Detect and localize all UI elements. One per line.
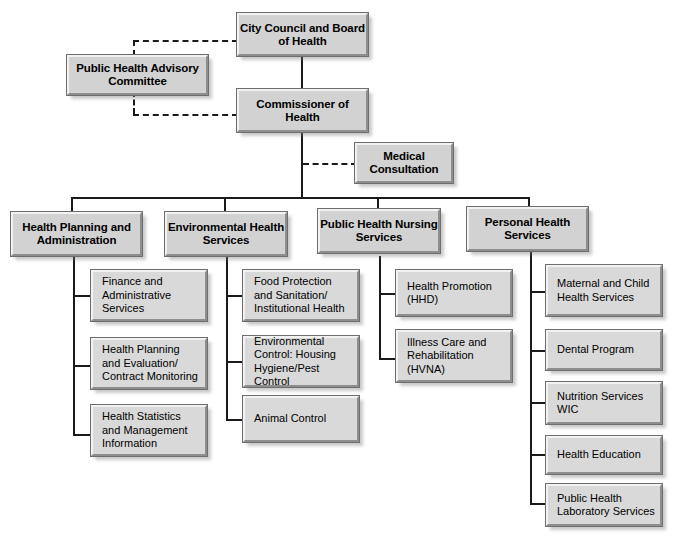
org-chart: City Council and Board of Health Public … — [0, 0, 676, 544]
spine-division-3 — [379, 256, 381, 360]
node-health-statistics-and-management-information[interactable]: Health Statistics and Management Informa… — [91, 405, 207, 456]
branch-division-2-child-1 — [226, 295, 244, 297]
division-1-child-3-label: Health Statistics and Management Informa… — [102, 410, 201, 451]
division-3-child-2-label: Illness Care and Rehabilitation (HVNA) — [407, 336, 506, 377]
node-food-protection-and-sanitation[interactable]: Food Protection and Sanitation/ Institut… — [243, 270, 359, 321]
node-city-council[interactable]: City Council and Board of Health — [237, 13, 368, 56]
division-3-child-1-label: Health Promotion (HHD) — [407, 280, 506, 307]
division-4-child-3-label: Nutrition Services WIC — [557, 390, 656, 417]
branch-division-4-child-4 — [530, 454, 547, 456]
division-head-3-label: Public Health Nursing Services — [320, 218, 438, 244]
branch-division-4-child-3 — [530, 402, 547, 404]
spine-division-1 — [73, 256, 75, 436]
division-head-personal-health-services[interactable]: Personal Health Services — [467, 207, 588, 251]
branch-division-2-child-3 — [226, 419, 244, 421]
division-head-1-label: Health Planning and Administration — [13, 221, 140, 247]
node-health-planning-and-evaluation[interactable]: Health Planning and Evaluation/ Contract… — [91, 338, 207, 389]
division-1-child-2-label: Health Planning and Evaluation/ Contract… — [102, 343, 201, 384]
division-head-environmental-health-services[interactable]: Environmental Health Services — [165, 212, 287, 256]
node-city-council-label: City Council and Board of Health — [239, 22, 366, 48]
division-bus-horizontal — [71, 197, 530, 199]
node-finance-and-administrative-services[interactable]: Finance and Administrative Services — [91, 270, 207, 321]
node-animal-control[interactable]: Animal Control — [243, 396, 359, 442]
branch-division-3-child-2 — [379, 358, 397, 360]
dashed-connector-council-advisory-horizontal — [133, 40, 238, 42]
node-health-promotion-hhd[interactable]: Health Promotion (HHD) — [396, 270, 512, 316]
node-medical-consultation-label: Medical Consultation — [357, 150, 451, 176]
division-4-child-1-label: Maternal and Child Health Services — [557, 277, 656, 304]
division-1-child-1-label: Finance and Administrative Services — [102, 275, 201, 316]
division-head-health-planning-and-administration[interactable]: Health Planning and Administration — [11, 212, 142, 256]
division-head-2-label: Environmental Health Services — [167, 221, 285, 247]
node-illness-care-and-rehabilitation-hvna[interactable]: Illness Care and Rehabilitation (HVNA) — [396, 330, 512, 382]
dashed-connector-council-advisory-vertical — [133, 40, 135, 56]
branch-division-1-child-2 — [73, 365, 92, 367]
node-medical-consultation[interactable]: Medical Consultation — [355, 143, 453, 183]
division-4-child-5-label: Public Health Laboratory Services — [557, 492, 656, 519]
connector-bus-to-division-2 — [224, 197, 226, 213]
node-maternal-and-child-health-services[interactable]: Maternal and Child Health Services — [546, 265, 662, 316]
division-head-4-label: Personal Health Services — [469, 216, 586, 242]
branch-division-4-child-5 — [530, 503, 547, 505]
branch-division-3-child-1 — [379, 293, 397, 295]
connector-council-to-commissioner — [301, 55, 303, 91]
division-2-child-2-label: Environmental Control: Housing Hygiene/P… — [254, 335, 353, 389]
connector-bus-to-division-1 — [71, 197, 73, 213]
branch-division-4-child-1 — [530, 291, 547, 293]
node-commissioner-of-health[interactable]: Commissioner of Health — [237, 89, 368, 132]
node-environmental-control-housing-hygiene-pest-control[interactable]: Environmental Control: Housing Hygiene/P… — [243, 336, 359, 387]
division-2-child-1-label: Food Protection and Sanitation/ Institut… — [254, 275, 353, 316]
branch-division-1-child-1 — [73, 295, 92, 297]
division-4-child-2-label: Dental Program — [557, 343, 656, 357]
division-4-child-4-label: Health Education — [557, 448, 656, 462]
spine-division-2 — [226, 256, 228, 420]
branch-division-4-child-2 — [530, 350, 547, 352]
node-public-health-laboratory-services[interactable]: Public Health Laboratory Services — [546, 484, 662, 526]
node-health-education[interactable]: Health Education — [546, 436, 662, 474]
division-head-public-health-nursing-services[interactable]: Public Health Nursing Services — [318, 209, 440, 253]
branch-division-2-child-2 — [226, 361, 244, 363]
division-2-child-3-label: Animal Control — [254, 412, 353, 426]
node-nutrition-services-wic[interactable]: Nutrition Services WIC — [546, 382, 662, 424]
node-public-health-advisory-committee[interactable]: Public Health Advisory Committee — [67, 55, 208, 95]
spine-division-4 — [530, 252, 532, 505]
branch-division-1-child-3 — [73, 434, 92, 436]
dashed-connector-medical-consultation — [303, 163, 357, 165]
dashed-connector-commissioner-advisory-horizontal — [133, 114, 238, 116]
node-commissioner-of-health-label: Commissioner of Health — [239, 98, 366, 124]
node-public-health-advisory-committee-label: Public Health Advisory Committee — [69, 62, 206, 88]
node-dental-program[interactable]: Dental Program — [546, 330, 662, 370]
